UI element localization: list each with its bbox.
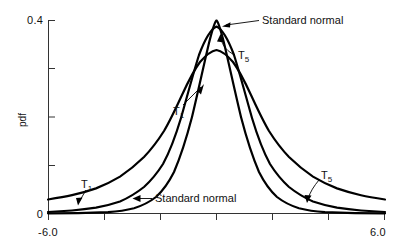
- annotation-t1-peak-sub: 1: [180, 111, 185, 120]
- annotation-t1-left-tail: T1: [81, 178, 93, 193]
- annotation-t5-peak: T5: [238, 49, 250, 64]
- arrowhead-t1-left-tail: [76, 198, 83, 206]
- y-axis-title: pdf: [17, 113, 28, 127]
- x-axis-left-label: -6.0: [38, 226, 58, 238]
- pdf-comparison-chart: 0.4 0 -6.0 6.0 pdf Standard normal T5 T1…: [0, 0, 399, 243]
- curve-t5: [48, 27, 385, 213]
- annotation-t5-right-tail-sub: 5: [328, 175, 333, 184]
- annotation-standard-normal-bottom: Standard normal: [155, 192, 236, 204]
- curve-t1: [48, 50, 385, 200]
- annotation-standard-normal-top: Standard normal: [262, 14, 343, 26]
- x-axis-right-label: 6.0: [370, 226, 386, 238]
- y-axis-bottom-label: 0: [37, 208, 43, 220]
- y-axis-top-label: 0.4: [27, 14, 43, 26]
- leader-standard-normal-top: [226, 21, 259, 26]
- arrowhead-standard-normal-bottom: [133, 195, 141, 202]
- annotation-t1-left-tail-sub: 1: [88, 184, 93, 193]
- chart-svg: 0.4 0 -6.0 6.0 pdf Standard normal T5 T1…: [0, 0, 399, 243]
- annotation-t5-peak-sub: 5: [245, 55, 250, 64]
- arrowhead-standard-normal-top: [222, 22, 231, 27]
